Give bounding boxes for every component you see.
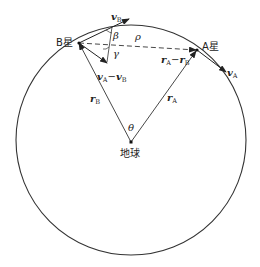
orbit-circle: [16, 25, 246, 255]
star-b-label: B星: [56, 37, 73, 48]
relative-position-label: rA−rB: [161, 54, 190, 67]
gamma-label: γ: [113, 48, 119, 59]
vb-label: vB: [111, 11, 122, 24]
rb-label: rB: [90, 93, 100, 106]
star-a-label: A星: [202, 41, 219, 52]
beta-label: β: [112, 30, 119, 41]
star-a-point: [195, 48, 198, 51]
chord-ba-dashed: [79, 43, 196, 50]
gamma-angle-arc: [103, 47, 109, 49]
star-b-point: [77, 41, 80, 44]
earth-label: 地球: [120, 147, 140, 159]
satellite-orbit-diagram: B星 A星 地球 vB vA vA−vB rB rA rA−rB β γ ρ θ: [0, 0, 260, 267]
rho-label: ρ: [134, 31, 141, 42]
earth-point: [130, 141, 133, 144]
va-arrow: [197, 50, 226, 72]
relative-velocity-arrow: [79, 43, 107, 63]
theta-label: θ: [128, 122, 134, 133]
relative-velocity-label: vA−vB: [97, 71, 127, 84]
va-label: vA: [227, 67, 238, 80]
radius-b-line: [79, 43, 131, 142]
ra-label: rA: [167, 92, 177, 105]
